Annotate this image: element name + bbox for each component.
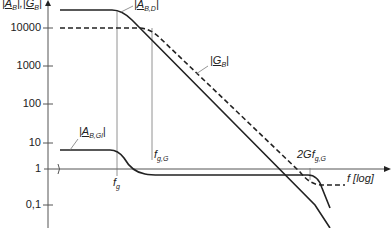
tick-10000: 10000 xyxy=(10,21,41,33)
label-GB: |GB| xyxy=(210,54,229,68)
bode-diagram xyxy=(0,0,391,228)
x-axis-arrow-icon xyxy=(384,166,391,172)
tick-0-1: 0,1 xyxy=(26,198,41,210)
marker-fg: fg xyxy=(113,176,120,190)
tick-100: 100 xyxy=(23,97,41,109)
tick-1: 1 xyxy=(35,162,41,174)
label-ABD: |AB,D| xyxy=(134,0,159,12)
y-axis-label: |AB|,|GB| xyxy=(2,0,42,11)
marker-2GfgG: 2Gfg,G xyxy=(297,148,326,162)
x-axis-label: f [log] xyxy=(347,172,374,184)
y-axis-arrow-icon xyxy=(45,0,51,6)
label-ABGl: |AB,Gl| xyxy=(79,125,106,139)
curve-ABD xyxy=(60,10,330,228)
tick-10: 10 xyxy=(29,136,41,148)
marker-fgG: fg,G xyxy=(154,148,168,162)
tick-1000: 1000 xyxy=(17,59,41,71)
guide-lines xyxy=(117,10,310,180)
